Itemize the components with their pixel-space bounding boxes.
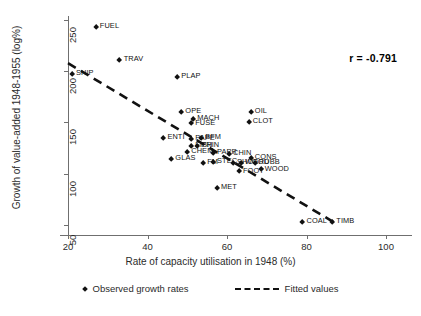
- data-point-label: ENTI: [167, 132, 184, 141]
- data-point-label: SHIP: [76, 68, 94, 77]
- data-point-label: OIL: [255, 106, 267, 115]
- plot-area: FUELTRAVSHIPPLAPOPEMACHFUSEOILCLOTENTIBF…: [68, 12, 386, 235]
- fitted-line: [68, 12, 386, 235]
- correlation-annotation: r = -0.791: [349, 52, 397, 64]
- y-tick-label: 250: [67, 20, 78, 50]
- y-tick-label: 50: [67, 225, 78, 255]
- data-point-label: TIMB: [336, 216, 354, 225]
- diamond-marker-icon: [82, 286, 88, 292]
- x-tick-label: 80: [301, 241, 312, 252]
- x-tick-label: 100: [378, 241, 394, 252]
- x-axis-line: [60, 235, 412, 236]
- dashed-line-icon: [235, 288, 279, 290]
- x-tick-mark: [386, 235, 387, 239]
- data-point-label: WOOD: [265, 164, 289, 173]
- data-point-label: TRAV: [124, 54, 144, 63]
- scatter-chart: FUELTRAVSHIPPLAPOPEMACHFUSEOILCLOTENTIBF…: [0, 0, 421, 316]
- data-point-label: COAL: [307, 216, 328, 225]
- data-point-label: FUSE: [195, 118, 215, 127]
- y-axis-title: Growth of value-added 1948-1955 (log%): [11, 3, 22, 233]
- legend-label-fitted: Fitted values: [285, 283, 339, 294]
- data-point-label: FOOT: [243, 166, 264, 175]
- y-tick-label: 150: [67, 122, 78, 152]
- data-point-label: CLOT: [253, 116, 273, 125]
- legend-label-observed: Observed growth rates: [93, 283, 189, 294]
- legend-item-fitted: Fitted values: [235, 283, 339, 294]
- data-point-label: MET: [221, 182, 237, 191]
- x-axis-title: Rate of capacity utilisation in 1948 (%): [0, 256, 421, 267]
- legend-item-observed: Observed growth rates: [83, 283, 189, 294]
- data-point-label: GLAS: [175, 153, 195, 162]
- x-tick-label: 60: [222, 241, 233, 252]
- data-point-label: FUEL: [100, 21, 119, 30]
- x-tick-mark: [307, 235, 308, 239]
- x-tick-mark: [148, 235, 149, 239]
- x-tick-mark: [227, 235, 228, 239]
- y-tick-label: 100: [67, 174, 78, 204]
- y-tick-label: 200: [67, 71, 78, 101]
- x-tick-label: 40: [142, 241, 153, 252]
- chart-legend: Observed growth rates Fitted values: [0, 283, 421, 294]
- data-point-label: PLAP: [181, 71, 200, 80]
